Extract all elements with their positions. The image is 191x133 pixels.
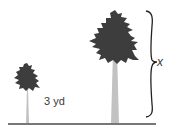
height-brace	[146, 11, 157, 117]
small-tree	[14, 63, 40, 123]
small-tree-trunk	[26, 88, 29, 123]
large-tree	[89, 10, 139, 123]
small-tree-height-label: 3 yd	[44, 95, 65, 107]
small-tree-crown	[14, 63, 40, 91]
large-tree-height-label: x	[157, 55, 163, 69]
large-tree-crown	[89, 10, 139, 64]
